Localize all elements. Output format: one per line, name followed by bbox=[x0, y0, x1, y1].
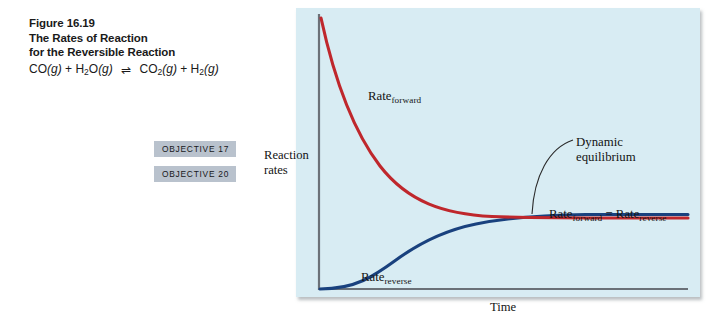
equation-plus-1: + bbox=[65, 62, 72, 76]
dynamic-equilibrium-line-1: Dynamic bbox=[576, 135, 623, 149]
forward-rate-label-subscript: forward bbox=[391, 95, 421, 105]
x-axis-label: Time bbox=[490, 300, 516, 315]
equation-reactant-1: CO bbox=[29, 62, 47, 76]
equality-operator: = bbox=[605, 207, 612, 221]
y-axis-label: Reaction rates bbox=[264, 148, 328, 177]
dynamic-equilibrium-annotation: Dynamic equilibrium bbox=[576, 135, 681, 165]
dynamic-equilibrium-line-2: equilibrium bbox=[576, 150, 636, 164]
forward-rate-label: Rateforward bbox=[368, 89, 421, 105]
equality-subscript-1: forward bbox=[572, 213, 602, 223]
equality-base-2: Rate bbox=[616, 207, 639, 221]
equation-reactant-2-post: O bbox=[89, 62, 98, 76]
figure-number: Figure 16.19 bbox=[29, 16, 279, 31]
forward-rate-curve bbox=[321, 18, 688, 218]
equation-product-2-state: (g) bbox=[204, 62, 219, 76]
equation-reactant-2-pre: H bbox=[75, 62, 84, 76]
dynamic-equilibrium-leader-line bbox=[532, 140, 573, 214]
objective-badge-17: OBJECTIVE 17 bbox=[154, 141, 236, 157]
equilibrium-arrow-icon: ⇌ bbox=[121, 62, 131, 78]
rate-equality-annotation: Rateforward = Ratereverse bbox=[549, 207, 667, 223]
equation-product-2-pre: H bbox=[191, 62, 200, 76]
figure-container: Figure 16.19 The Rates of Reaction for t… bbox=[0, 0, 726, 326]
reverse-rate-label-base: Rate bbox=[361, 270, 384, 284]
equation-product-1-state: (g) bbox=[162, 62, 177, 76]
equality-base-1: Rate bbox=[549, 207, 572, 221]
equation-product-1-pre: CO bbox=[139, 62, 157, 76]
reverse-rate-label: Ratereverse bbox=[361, 270, 412, 286]
reverse-rate-label-subscript: reverse bbox=[384, 276, 411, 286]
objective-badge-20: OBJECTIVE 20 bbox=[154, 166, 236, 182]
equation-product-1: CO2 bbox=[139, 62, 162, 76]
forward-rate-label-base: Rate bbox=[368, 89, 391, 103]
equation-plus-2: + bbox=[180, 62, 187, 76]
equation-reactant-2: H2O bbox=[75, 62, 98, 76]
figure-caption: Figure 16.19 The Rates of Reaction for t… bbox=[29, 16, 279, 80]
equation-reactant-2-state: (g) bbox=[98, 62, 113, 76]
figure-title-line-1: The Rates of Reaction bbox=[29, 31, 279, 46]
equality-subscript-2: reverse bbox=[639, 213, 666, 223]
y-axis-label-text: Reaction rates bbox=[264, 148, 309, 177]
equation-reactant-1-state: (g) bbox=[47, 62, 62, 76]
equation-product-2: H2 bbox=[191, 62, 204, 76]
figure-title-line-2: for the Reversible Reaction bbox=[29, 45, 279, 60]
chemical-equation: CO(g) + H2O(g) ⇌ CO2(g) + H2(g) bbox=[29, 61, 279, 80]
